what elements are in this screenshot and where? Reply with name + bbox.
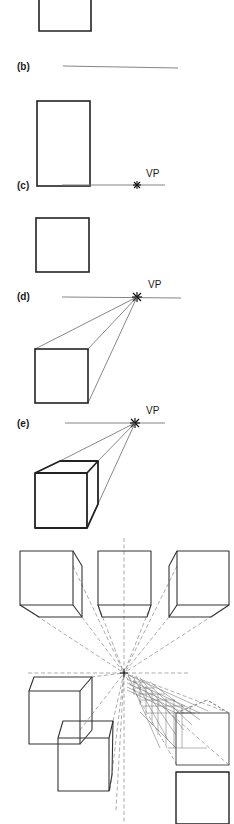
step-c-label: (c) (17, 180, 29, 191)
orthogonal-lines (35, 297, 137, 403)
step-e-vp-label: VP (146, 405, 159, 416)
cube-lower-left-2 (58, 721, 113, 791)
cube-lower-right (176, 700, 229, 824)
step-e (35, 418, 165, 528)
perspective-diagram (0, 0, 234, 824)
cube-lower-left-1 (29, 677, 92, 744)
central-vanishing-point-icon (120, 669, 128, 677)
step-d (35, 292, 181, 403)
cube-top-center (98, 551, 151, 617)
step-c (36, 181, 165, 272)
step-e-label: (e) (17, 418, 29, 429)
cube-top-left (20, 551, 82, 617)
guide-lines (20, 538, 229, 824)
horizon-line (62, 297, 181, 298)
horizon-line (63, 66, 178, 68)
multi-cube-panel (20, 538, 229, 824)
step-c-vp-label: VP (146, 168, 159, 179)
front-square (35, 349, 88, 403)
front-square (37, 101, 90, 186)
step-a-square (39, 0, 91, 31)
cube-top-right (169, 551, 229, 617)
vanishing-point-star-icon (133, 181, 141, 189)
step-d-label: (d) (17, 291, 30, 302)
cube (35, 461, 98, 528)
front-square (36, 218, 89, 272)
step-d-vp-label: VP (148, 279, 161, 290)
step-b-label: (b) (17, 61, 30, 72)
